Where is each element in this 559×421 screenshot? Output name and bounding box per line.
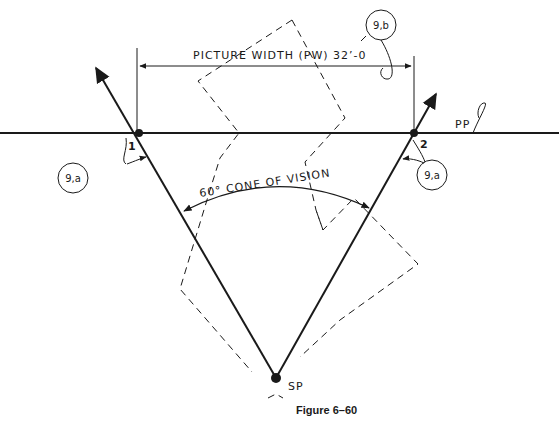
diagram-canvas: PICTURE WIDTH (PW) 32’-0 60° CONE OF VIS… bbox=[0, 0, 559, 421]
point-2-label: 2 bbox=[420, 138, 428, 151]
callout-top: 9,b bbox=[361, 10, 396, 79]
plan-corner-bottom bbox=[268, 394, 283, 398]
point-1-label: 1 bbox=[128, 140, 136, 153]
callout-left-leader-lower bbox=[127, 157, 146, 164]
picture-plane-leader bbox=[473, 103, 486, 133]
point-2-marker bbox=[410, 129, 418, 137]
station-point-marker bbox=[271, 373, 281, 383]
callout-right-label: 9,a bbox=[424, 170, 440, 181]
figure-caption: Figure 6–60 bbox=[296, 404, 357, 416]
callout-left-leader-upper bbox=[124, 138, 127, 164]
cone-of-vision-label: 60° CONE OF VISION bbox=[198, 166, 331, 200]
plan-outline-left bbox=[180, 20, 292, 372]
station-point-label: SP bbox=[288, 380, 304, 393]
callout-top-tick bbox=[361, 36, 366, 41]
callout-top-leader bbox=[381, 40, 392, 79]
sight-line-right bbox=[276, 94, 436, 378]
picture-plane-label: PP bbox=[455, 118, 470, 131]
perspective-diagram: PICTURE WIDTH (PW) 32’-0 60° CONE OF VIS… bbox=[0, 0, 559, 421]
callout-right-leader-lower bbox=[403, 159, 424, 163]
callout-top-label: 9,b bbox=[373, 20, 389, 31]
plan-outline-right bbox=[292, 20, 418, 357]
point-1-marker bbox=[135, 129, 143, 137]
sight-line-left bbox=[96, 68, 276, 378]
callout-left-label: 9,a bbox=[65, 173, 81, 184]
picture-width-label: PICTURE WIDTH (PW) 32’-0 bbox=[193, 49, 367, 62]
